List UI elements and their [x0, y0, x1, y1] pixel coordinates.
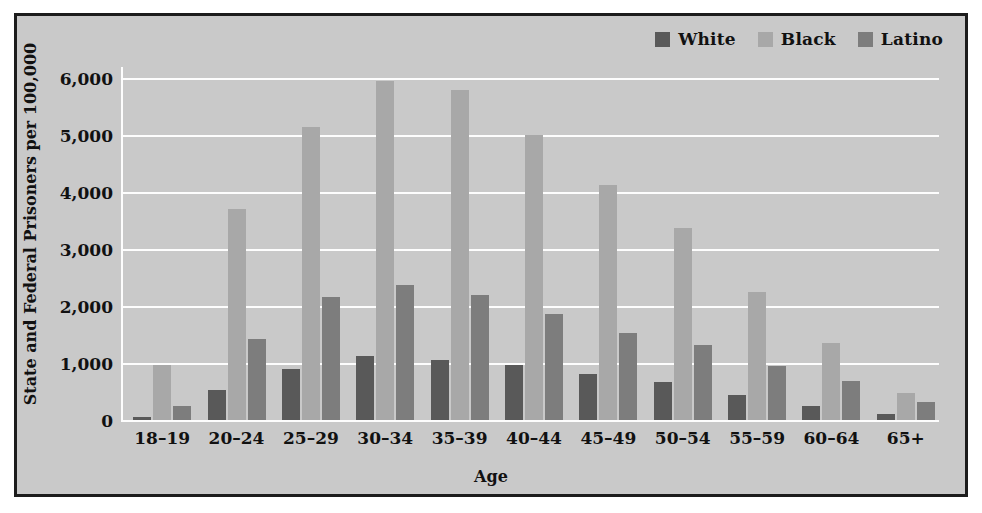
y-tick-label: 6,000: [60, 69, 113, 89]
x-tick-label: 30–34: [357, 428, 413, 448]
x-tick-label: 25–29: [283, 428, 339, 448]
y-tick-label: 5,000: [60, 126, 113, 146]
y-axis-title: State and Federal Prisoners per 100,000: [21, 28, 47, 420]
x-tick-label: 35–39: [432, 428, 488, 448]
y-axis-tick-labels: 01,0002,0003,0004,0005,0006,000: [47, 67, 113, 422]
x-axis-title: Age: [17, 467, 965, 486]
x-tick-label: 18–19: [134, 428, 190, 448]
x-axis-tick-labels: 18–1920–2425–2930–3435–3940–4445–4950–54…: [121, 16, 939, 494]
x-tick-label: 20–24: [209, 428, 265, 448]
x-tick-label: 50–54: [655, 428, 711, 448]
chart-frame: WhiteBlackLatino State and Federal Priso…: [14, 13, 968, 497]
x-tick-label: 55–59: [729, 428, 785, 448]
x-tick-label: 65+: [887, 428, 925, 448]
x-tick-label: 45–49: [580, 428, 636, 448]
x-tick-label: 60–64: [804, 428, 860, 448]
y-tick-label: 0: [101, 411, 113, 431]
y-tick-label: 1,000: [60, 354, 113, 374]
y-tick-label: 3,000: [60, 240, 113, 260]
y-tick-label: 2,000: [60, 297, 113, 317]
y-tick-label: 4,000: [60, 183, 113, 203]
x-tick-label: 40–44: [506, 428, 562, 448]
